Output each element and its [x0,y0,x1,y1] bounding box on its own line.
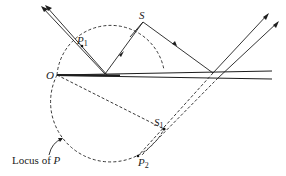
thin-film-diagram: S O P1 S1 P2 Locus of P [0,0,286,176]
label-s1: S1 [154,116,164,130]
film-apex [57,75,120,76]
locus-circle [51,25,164,162]
arrow-icon [273,21,279,28]
left-ray-group [41,5,143,76]
ray-s-to-right-reflect [143,22,213,73]
label-locus: Locus of P [12,154,61,166]
extension-ray-1 [138,73,213,156]
label-o: O [46,69,54,81]
label-s: S [139,9,145,21]
o-to-s1-line [57,75,164,129]
thin-film [57,71,272,79]
reflected-ray-1 [42,7,105,74]
ray-s-to-left-reflect [105,22,143,74]
label-p2: P2 [137,156,149,170]
ray-s-left-short [130,22,143,37]
reflected-ray-4 [218,22,278,78]
label-p1: P1 [76,34,88,48]
reflected-ray-3 [213,14,268,73]
right-ray-group [138,13,279,156]
